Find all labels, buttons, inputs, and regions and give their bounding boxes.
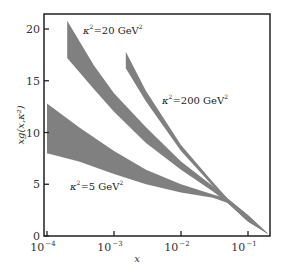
y-tick-label: 20 [26, 23, 40, 36]
series-labels: κ2=5 GeV2κ2=20 GeV2κ2=200 GeV2 [69, 23, 228, 192]
uncertainty-bands [47, 21, 268, 234]
chart: 10−410−310−210−1 05101520 κ2=5 GeV2κ2=20… [0, 0, 283, 272]
x-axis-ticks: 10−410−310−210−1 [30, 231, 256, 254]
x-tick-label: 10−1 [231, 240, 256, 254]
x-tick-label: 10−3 [97, 240, 122, 254]
y-tick-label: 5 [33, 178, 40, 191]
y-axis-ticks: 05101520 [26, 23, 49, 243]
x-tick-label: 10−2 [164, 240, 189, 254]
series-label-1: κ2=20 GeV2 [82, 23, 143, 36]
band-series-0 [47, 104, 268, 234]
y-tick-label: 10 [26, 127, 40, 140]
series-label-2: κ2=200 GeV2 [161, 93, 228, 106]
y-axis-label: xg(x,κ²) [15, 105, 26, 144]
y-tick-label: 0 [33, 230, 40, 243]
series-label-0: κ2=5 GeV2 [69, 179, 123, 192]
y-tick-label: 15 [26, 75, 40, 88]
x-axis-label: x [134, 253, 140, 264]
